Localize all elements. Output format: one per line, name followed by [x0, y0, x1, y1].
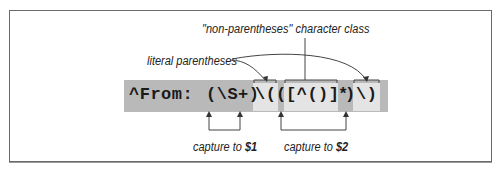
literal-open-leader — [230, 60, 265, 80]
capture-2-bracket — [281, 116, 346, 130]
connector-lines — [0, 0, 500, 173]
capture-2-open-arrow-icon — [278, 111, 284, 117]
char-class-bracket — [285, 80, 337, 83]
literal-open-bracket — [254, 80, 276, 83]
capture-1-open-arrow-icon — [206, 111, 212, 117]
capture-1-bracket — [209, 116, 240, 130]
capture-1-close-arrow-icon — [237, 111, 243, 117]
literal-close-arrow-icon — [363, 76, 369, 82]
capture-2-close-arrow-icon — [343, 111, 349, 117]
